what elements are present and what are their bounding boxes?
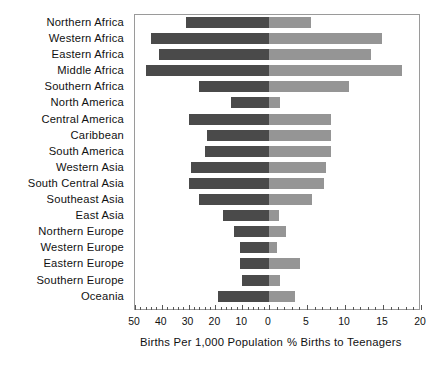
axis-tick-minor	[292, 307, 293, 310]
category-label: Southern Africa	[0, 78, 129, 94]
category-label: Northern Europe	[0, 223, 129, 239]
axis-tick-minor	[167, 307, 168, 310]
axis-tick-minor	[226, 307, 227, 310]
category-label: North America	[0, 94, 129, 110]
bar-births-per-1000	[151, 33, 269, 44]
bar-pct-births-teenagers	[269, 114, 331, 125]
bar-births-per-1000	[240, 242, 269, 253]
bar-row	[135, 31, 419, 47]
chart-container: Northern AfricaWestern AfricaEastern Afr…	[0, 0, 439, 368]
bar-row	[135, 128, 419, 144]
axis-tick-minor	[253, 307, 254, 310]
bar-births-per-1000	[231, 97, 269, 108]
bar-pct-births-teenagers	[269, 194, 312, 205]
axis-tick-major	[215, 305, 216, 310]
tick-label-right: 10	[329, 316, 359, 327]
bar-births-per-1000	[199, 194, 269, 205]
tick-label-left: 50	[119, 316, 149, 327]
bar-row	[135, 240, 419, 256]
bar-births-per-1000	[189, 114, 269, 125]
bar-row	[135, 160, 419, 176]
left-axis-title: Births Per 1,000 Population	[140, 336, 283, 348]
category-label: Eastern Africa	[0, 46, 129, 62]
axis-tick-minor	[210, 307, 211, 310]
axis-tick-minor	[156, 307, 157, 310]
right-axis-title: % Births to Teenagers	[287, 336, 402, 348]
axis-tick-minor	[368, 307, 369, 310]
axis-tick-minor	[284, 307, 285, 310]
bar-pct-births-teenagers	[269, 242, 277, 253]
category-label: South America	[0, 143, 129, 159]
axis-tick-minor	[264, 307, 265, 310]
axis-tick-major	[421, 305, 422, 310]
bar-births-per-1000	[234, 226, 269, 237]
bar-row	[135, 208, 419, 224]
bar-pct-births-teenagers	[269, 17, 311, 28]
axis-tick-major	[269, 305, 270, 310]
category-label: Southeast Asia	[0, 191, 129, 207]
axis-tick-minor	[406, 307, 407, 310]
category-axis-labels: Northern AfricaWestern AfricaEastern Afr…	[0, 14, 129, 304]
category-label: Southern Europe	[0, 272, 129, 288]
axis-tick-minor	[248, 307, 249, 310]
bar-row	[135, 47, 419, 63]
axis-tick-minor	[413, 307, 414, 310]
bar-row	[135, 95, 419, 111]
bar-rows	[135, 15, 419, 309]
axis-tick-minor	[194, 307, 195, 310]
axis-tick-major	[383, 305, 384, 310]
bar-row	[135, 176, 419, 192]
axis-tick-minor	[360, 307, 361, 310]
bar-pct-births-teenagers	[269, 65, 402, 76]
bar-pct-births-teenagers	[269, 226, 286, 237]
bar-row	[135, 192, 419, 208]
category-label: Central America	[0, 111, 129, 127]
axis-tick-minor	[237, 307, 238, 310]
bar-births-per-1000	[199, 81, 269, 92]
category-label: East Asia	[0, 207, 129, 223]
bar-pct-births-teenagers	[269, 81, 349, 92]
bar-row	[135, 112, 419, 128]
bar-pct-births-teenagers	[269, 146, 331, 157]
bar-row	[135, 79, 419, 95]
axis-tick-minor	[183, 307, 184, 310]
axis-tick-minor	[337, 307, 338, 310]
bar-pct-births-teenagers	[269, 258, 300, 269]
bar-pct-births-teenagers	[269, 178, 324, 189]
category-label: Western Asia	[0, 159, 129, 175]
tick-label-left: 30	[173, 316, 203, 327]
bar-row	[135, 144, 419, 160]
plot-area	[134, 14, 420, 310]
axis-tick-minor	[375, 307, 376, 310]
bar-row	[135, 289, 419, 305]
category-label: Caribbean	[0, 127, 129, 143]
bar-row	[135, 63, 419, 79]
bar-pct-births-teenagers	[269, 291, 295, 302]
axis-tick-minor	[330, 307, 331, 310]
bar-births-per-1000	[240, 258, 269, 269]
tick-label-right: 15	[367, 316, 397, 327]
bar-pct-births-teenagers	[269, 162, 326, 173]
tick-label-left: 20	[199, 316, 229, 327]
axis-tick-minor	[178, 307, 179, 310]
axis-tick-minor	[151, 307, 152, 310]
axis-tick-major	[307, 305, 308, 310]
bar-births-per-1000	[189, 178, 269, 189]
axis-tick-major	[162, 305, 163, 310]
category-label: Western Europe	[0, 239, 129, 255]
category-label: Northern Africa	[0, 14, 129, 30]
tick-label-right: 20	[405, 316, 435, 327]
axis-tick-minor	[391, 307, 392, 310]
axis-tick-minor	[398, 307, 399, 310]
category-label: Oceania	[0, 288, 129, 304]
bar-row	[135, 15, 419, 31]
bar-births-per-1000	[186, 17, 269, 28]
axis-tick-minor	[146, 307, 147, 310]
axis-tick-minor	[199, 307, 200, 310]
axis-tick-major	[189, 305, 190, 310]
bar-row	[135, 256, 419, 272]
axis-titles: Births Per 1,000 Population % Births to …	[0, 336, 439, 356]
axis-tick-minor	[140, 307, 141, 310]
tick-label-left: 40	[146, 316, 176, 327]
bar-row	[135, 273, 419, 289]
